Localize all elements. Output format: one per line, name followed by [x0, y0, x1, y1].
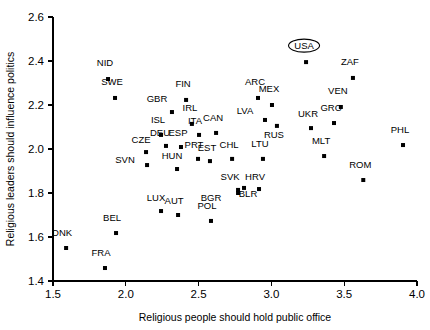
data-point-label-aut: AUT [165, 195, 184, 206]
data-point-label-pol: POL [197, 200, 216, 211]
data-point-marker-cze [144, 150, 148, 154]
data-point-label-hun: HUN [162, 150, 183, 161]
data-point-label-fin: FIN [175, 78, 190, 89]
data-point-label-dnk: DNK [52, 227, 73, 238]
data-point-label-svn: SVN [115, 154, 135, 165]
data-point-label-deu: DEU [150, 127, 170, 138]
data-point-marker-mlt [322, 154, 326, 158]
data-point-label-ita: ITA [188, 115, 203, 126]
data-point-label-rom: ROM [349, 159, 371, 170]
y-axis-tick-label: 1.8 [28, 187, 44, 199]
data-point-marker-prt [196, 157, 200, 161]
data-point-label-usa: USA [294, 40, 314, 51]
y-axis-tick-label: 2.0 [28, 143, 44, 155]
data-point-marker-deu [164, 144, 168, 148]
data-point-label-est: EST [198, 142, 217, 153]
data-point-marker-svn [145, 163, 149, 167]
scatter-plot-canvas: 1.52.02.53.03.54.01.41.61.82.02.22.42.6 … [0, 0, 430, 330]
data-point-marker-pol [209, 219, 213, 223]
data-point-label-isl: ISL [151, 114, 165, 125]
data-point-label-mlt: MLT [312, 135, 330, 146]
x-axis-tick-label: 3.0 [263, 288, 279, 300]
data-point-label-swe: SWE [101, 76, 123, 87]
data-point-marker-rus [275, 124, 279, 128]
data-point-label-mex: MEX [259, 83, 280, 94]
data-point-marker-mex [270, 103, 274, 107]
data-point-marker-hun [175, 167, 179, 171]
data-point-label-chl: CHL [220, 139, 239, 150]
y-axis-tick-label: 1.4 [28, 275, 45, 287]
data-point-marker-chl [230, 157, 234, 161]
data-point-label-lux: LUX [147, 192, 166, 203]
x-axis-tick-label: 2.0 [118, 288, 134, 300]
data-point-label-nid: NID [97, 57, 114, 68]
y-axis-title: Religious leaders should influence polit… [4, 52, 16, 246]
data-point-marker-can [214, 131, 218, 135]
x-axis-title: Religious people should hold public offi… [139, 311, 332, 323]
data-point-marker-grc [332, 121, 336, 125]
data-point-marker-gbr [170, 110, 174, 114]
data-point-label-zaf: ZAF [341, 56, 359, 67]
data-point-marker-phl [401, 143, 405, 147]
data-point-label-svk: SVK [221, 171, 241, 182]
data-point-marker-usa [304, 60, 308, 64]
y-axis-tick-label: 2.6 [28, 11, 44, 23]
scatter-plot-figure: 1.52.02.53.03.54.01.41.61.82.02.22.42.6 … [0, 0, 430, 330]
data-point-label-blr: BLR [239, 188, 258, 199]
data-point-label-ltu: LTU [251, 138, 268, 149]
data-point-marker-ltu [261, 157, 265, 161]
data-point-marker-arc [256, 96, 260, 100]
data-point-marker-hrv [257, 187, 261, 191]
data-point-marker-ita [197, 133, 201, 137]
x-axis-tick-label: 3.5 [336, 288, 352, 300]
data-point-marker-rom [361, 178, 365, 182]
data-point-label-ven: VEN [328, 85, 348, 96]
data-point-label-hrv: HRV [245, 171, 266, 182]
data-point-marker-fra [103, 266, 107, 270]
data-point-marker-lux [159, 209, 163, 213]
data-point-label-ukr: UKR [298, 108, 318, 119]
y-axis-tick-label: 1.6 [28, 231, 44, 243]
data-point-label-lva: LVA [237, 105, 254, 116]
data-point-marker-dnk [64, 246, 68, 250]
data-point-marker-esp [179, 145, 183, 149]
data-point-label-cze: CZE [132, 134, 151, 145]
data-point-label-gbr: GBR [147, 93, 168, 104]
axes: 1.52.02.53.03.54.01.41.61.82.02.22.42.6 [28, 11, 425, 300]
data-point-label-grc: GRC [320, 102, 341, 113]
y-axis-tick-label: 2.4 [28, 55, 45, 67]
data-point-marker-lva [263, 118, 267, 122]
x-axis-tick-label: 2.5 [191, 288, 207, 300]
data-point-label-bel: BEL [103, 212, 121, 223]
x-axis-tick-label: 1.5 [45, 288, 61, 300]
data-point-label-phl: PHL [391, 124, 409, 135]
point-labels: NIDSWEFINGBRIRLARCMEXLVARUSUKRGRCUSAZAFV… [52, 39, 409, 258]
data-point-label-irl: IRL [183, 102, 198, 113]
data-point-label-fra: FRA [91, 247, 111, 258]
x-axis-tick-label: 4.0 [409, 288, 425, 300]
data-point-marker-aut [176, 213, 180, 217]
data-point-marker-ukr [309, 126, 313, 130]
data-point-marker-zaf [351, 76, 355, 80]
data-point-marker-bel [114, 231, 118, 235]
data-point-label-can: CAN [203, 112, 223, 123]
data-point-label-esp: ESP [168, 127, 187, 138]
data-point-marker-swe [113, 96, 117, 100]
y-axis-tick-label: 2.2 [28, 99, 44, 111]
data-point-marker-est [208, 159, 212, 163]
